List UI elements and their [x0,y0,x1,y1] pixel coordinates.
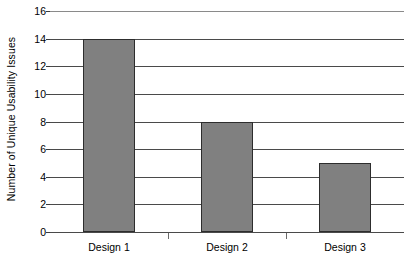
y-tick-mark [46,122,50,123]
bar-design-2 [201,122,253,233]
y-tick-mark [46,11,50,12]
y-tick-mark [46,232,50,233]
y-tick-mark [46,94,50,95]
y-axis-title-text: Number of Unique Usability Issues [5,37,17,201]
x-category-label: Design 1 [88,241,129,253]
y-axis-title: Number of Unique Usability Issues [0,0,22,238]
x-tick-mark [168,233,169,239]
y-tick-label: 16 [34,6,46,17]
x-category-label: Design 3 [324,241,365,253]
gridline [50,232,404,233]
y-tick-mark [46,39,50,40]
bar-design-3 [319,163,371,232]
y-axis-tick-labels: 0246810121416 [22,0,48,264]
y-tick-mark [46,66,50,67]
bar-design-1 [83,39,135,232]
x-tick-mark [286,233,287,239]
bar-chart: Number of Unique Usability Issues 024681… [0,0,416,264]
y-tick-label: 12 [34,61,46,72]
x-category-label: Design 2 [206,241,247,253]
y-tick-mark [46,177,50,178]
gridline [50,11,404,12]
plot-area [50,11,404,232]
y-tick-mark [46,204,50,205]
y-tick-label: 14 [34,33,46,44]
y-tick-mark [46,149,50,150]
y-tick-label: 10 [34,89,46,100]
